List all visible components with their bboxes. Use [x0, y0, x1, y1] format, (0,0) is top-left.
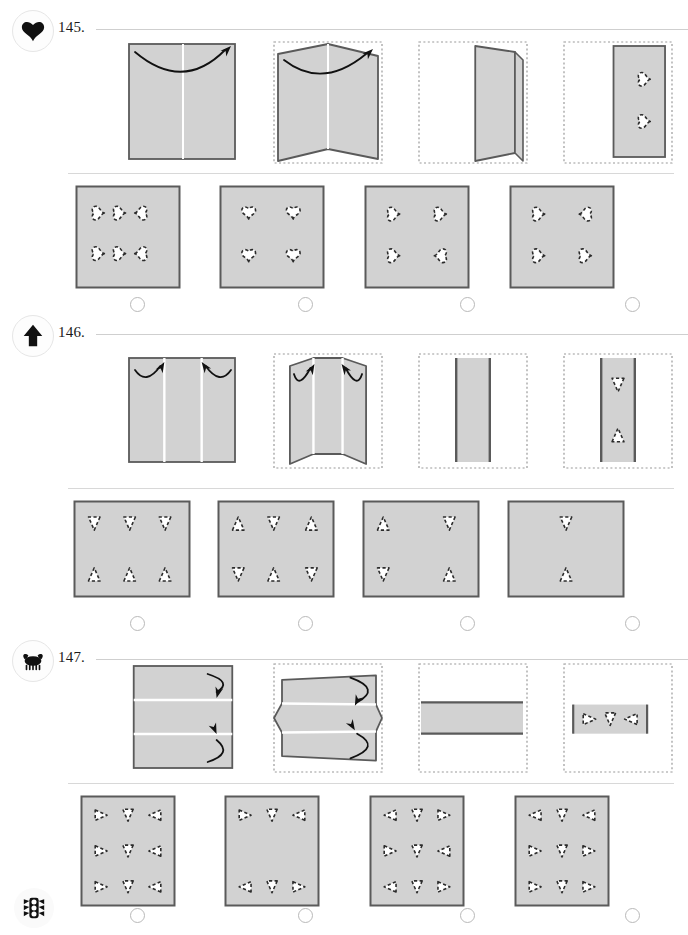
paper [601, 358, 635, 462]
option-a[interactable] [75, 185, 181, 289]
option-c[interactable] [369, 795, 465, 907]
option-c[interactable] [362, 500, 480, 598]
arrow-up-icon [20, 323, 46, 349]
option-d[interactable] [509, 185, 615, 289]
option-radio-4[interactable] [625, 297, 640, 312]
section-separator [68, 173, 674, 174]
question-icon-badge [12, 315, 54, 357]
sheet-bent [274, 675, 382, 760]
fold-step-3 [417, 662, 529, 774]
option-cell-4[interactable] [509, 185, 615, 289]
paper [456, 358, 490, 462]
paper [614, 46, 666, 157]
worksheet-page: 145.146.147. [0, 0, 688, 935]
fold-step-3 [417, 352, 529, 470]
fold-step-2 [272, 662, 384, 774]
option-cell-2[interactable] [217, 500, 335, 598]
paper [129, 358, 235, 462]
option-sheet [511, 187, 614, 288]
option-sheet [75, 502, 190, 597]
option-radio-3[interactable] [460, 616, 475, 631]
option-radio-2[interactable] [298, 908, 313, 923]
crab-icon [20, 648, 46, 674]
option-cell-2[interactable] [224, 795, 320, 907]
paper [274, 675, 382, 760]
option-radio-3[interactable] [460, 297, 475, 312]
traffic-light-icon [21, 895, 47, 921]
prompt-cell-1 [127, 662, 239, 774]
sheet-band [421, 702, 523, 733]
fold-step-4 [562, 352, 674, 470]
option-cell-3[interactable] [364, 185, 470, 289]
sheet [129, 358, 235, 462]
option-cell-2[interactable] [219, 185, 325, 289]
option-sheet [77, 187, 180, 288]
prompt-cell-3 [417, 352, 529, 470]
sheet [134, 666, 233, 768]
option-radio-1[interactable] [130, 297, 145, 312]
sheet-punched [614, 46, 666, 157]
sheet-bent [290, 358, 366, 464]
option-radio-3[interactable] [460, 908, 475, 923]
option-sheet [366, 187, 469, 288]
prompt-cell-2 [272, 40, 384, 165]
option-sheet [509, 502, 624, 597]
option-d[interactable] [514, 795, 610, 907]
question-header-146: 146. [0, 315, 688, 355]
question-number: 145. [58, 19, 85, 36]
paper [475, 46, 523, 161]
option-radio-1[interactable] [130, 616, 145, 631]
crease-h2 [282, 731, 376, 732]
option-cell-1[interactable] [73, 500, 191, 598]
section-separator [68, 488, 674, 489]
option-cell-3[interactable] [362, 500, 480, 598]
prompt-cell-4 [562, 40, 674, 165]
option-b[interactable] [217, 500, 335, 598]
option-d[interactable] [507, 500, 625, 598]
option-cell-1[interactable] [75, 185, 181, 289]
option-a[interactable] [80, 795, 176, 907]
sheet-band [601, 358, 635, 462]
option-b[interactable] [224, 795, 320, 907]
paper [129, 43, 235, 159]
fold-step-1 [127, 352, 239, 470]
option-a[interactable] [73, 500, 191, 598]
fold-step-2 [272, 40, 384, 165]
fold-step-3 [417, 40, 529, 165]
prompt-cell-4 [562, 662, 674, 774]
option-cell-1[interactable] [80, 795, 176, 907]
sheet-back [515, 52, 523, 161]
question-number: 147. [58, 649, 85, 666]
prompt-cell-4 [562, 352, 674, 470]
option-cell-3[interactable] [369, 795, 465, 907]
option-sheet [364, 502, 479, 597]
fold-step-4 [562, 40, 674, 165]
option-radio-4[interactable] [625, 908, 640, 923]
prompt-cell-1 [127, 40, 239, 165]
fold-step-2 [272, 352, 384, 470]
prompt-cell-2 [272, 662, 384, 774]
option-radio-2[interactable] [298, 616, 313, 631]
crease-h1 [282, 703, 376, 704]
option-radio-1[interactable] [130, 908, 145, 923]
prompt-cell-3 [417, 40, 529, 165]
option-radio-2[interactable] [298, 297, 313, 312]
question-number: 146. [58, 324, 85, 341]
option-c[interactable] [364, 185, 470, 289]
fold-step-1 [127, 40, 239, 165]
option-b[interactable] [219, 185, 325, 289]
option-sheet [219, 502, 334, 597]
option-radio-4[interactable] [625, 616, 640, 631]
paper [278, 44, 378, 161]
paper [134, 666, 233, 768]
question-icon-badge [12, 10, 54, 52]
option-cell-4[interactable] [514, 795, 610, 907]
question-icon-badge [12, 640, 54, 682]
paper [421, 702, 523, 733]
fold-step-4 [562, 662, 674, 774]
header-rule [96, 334, 688, 335]
paper [290, 358, 366, 464]
fold-step-1 [127, 662, 239, 774]
header-rule [96, 29, 688, 30]
option-cell-4[interactable] [507, 500, 625, 598]
